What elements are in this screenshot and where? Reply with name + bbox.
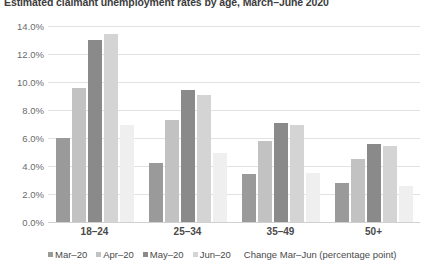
bar-group: [234, 26, 327, 222]
bar[interactable]: [306, 173, 320, 222]
bar[interactable]: [290, 125, 304, 222]
legend-item[interactable]: Jun–20: [193, 249, 231, 260]
y-axis-tick-label: 6.0%: [22, 133, 44, 144]
bar[interactable]: [72, 88, 86, 222]
chart-title: Estimated claimant unemployment rates by…: [4, 0, 329, 8]
x-axis-tick-label: 50+: [327, 226, 420, 237]
gridline: [48, 222, 420, 223]
legend-swatch-icon: [48, 252, 53, 257]
chart-legend: Mar–20Apr–20May–20Jun–20Change Mar–Jun (…: [48, 249, 427, 260]
bar[interactable]: [213, 153, 227, 222]
bar[interactable]: [149, 163, 163, 222]
y-axis-tick-label: 2.0%: [22, 189, 44, 200]
chart-container: Estimated claimant unemployment rates by…: [0, 0, 427, 273]
x-axis-tick-label: 35–49: [234, 226, 327, 237]
bar[interactable]: [399, 186, 413, 222]
y-axis-tick-label: 12.0%: [17, 49, 44, 60]
bars: [141, 26, 234, 222]
bar[interactable]: [274, 123, 288, 222]
bar-groups: [48, 26, 420, 222]
legend-swatch-icon: [193, 252, 198, 257]
bar[interactable]: [383, 146, 397, 222]
bar[interactable]: [56, 138, 70, 222]
bar-group: [48, 26, 141, 222]
y-axis-tick-label: 4.0%: [22, 161, 44, 172]
bar[interactable]: [351, 159, 365, 222]
bar-group: [141, 26, 234, 222]
bars: [48, 26, 141, 222]
bar[interactable]: [197, 95, 211, 222]
legend-label: Mar–20: [55, 249, 87, 260]
y-axis-tick-label: 14.0%: [17, 21, 44, 32]
legend-swatch-icon: [143, 252, 148, 257]
bar[interactable]: [242, 174, 256, 222]
bar[interactable]: [367, 144, 381, 222]
plot-area: [48, 26, 420, 222]
bar[interactable]: [335, 183, 349, 222]
legend-swatch-icon: [96, 252, 101, 257]
bar[interactable]: [165, 120, 179, 222]
bars: [234, 26, 327, 222]
bar[interactable]: [181, 90, 195, 222]
legend-item[interactable]: Apr–20: [96, 249, 134, 260]
y-axis-tick-label: 8.0%: [22, 105, 44, 116]
legend-label: Apr–20: [103, 249, 134, 260]
bar[interactable]: [120, 125, 134, 222]
y-axis-labels: 0.0%2.0%4.0%6.0%8.0%10.0%12.0%14.0%: [0, 26, 44, 222]
x-axis-labels: 18–2425–3435–4950+: [48, 226, 420, 237]
bar[interactable]: [104, 34, 118, 222]
legend-label: Jun–20: [200, 249, 231, 260]
y-axis-tick-label: 10.0%: [17, 77, 44, 88]
legend-item[interactable]: May–20: [143, 249, 184, 260]
bar[interactable]: [258, 141, 272, 222]
x-axis-tick-label: 18–24: [48, 226, 141, 237]
bar-group: [327, 26, 420, 222]
x-axis-tick-label: 25–34: [141, 226, 234, 237]
bar[interactable]: [88, 40, 102, 222]
bars: [327, 26, 420, 222]
legend-change-note: Change Mar–Jun (percentage point): [244, 249, 397, 260]
y-axis-tick-label: 0.0%: [22, 217, 44, 228]
legend-item[interactable]: Mar–20: [48, 249, 87, 260]
legend-label: May–20: [150, 249, 184, 260]
